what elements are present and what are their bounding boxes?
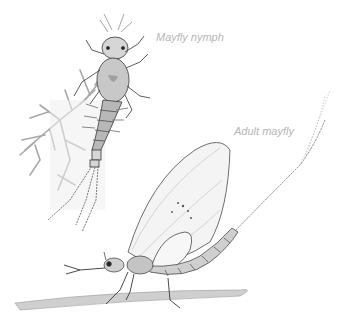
- grass-stem: [15, 290, 248, 310]
- adult-label: Adult mayfly: [234, 125, 294, 137]
- mayfly-illustration: Mayfly nymph Adult mayfly: [0, 0, 345, 321]
- nymph-label: Mayfly nymph: [156, 31, 224, 43]
- drawing: [0, 0, 345, 321]
